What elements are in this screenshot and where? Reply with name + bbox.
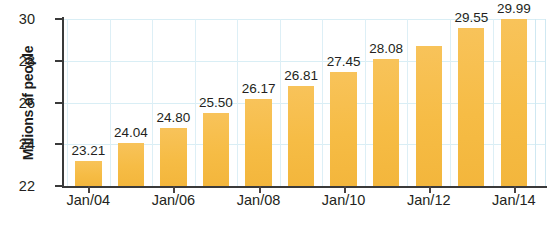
gridline-vertical xyxy=(322,19,323,186)
bar-value-label: 24.04 xyxy=(103,125,159,140)
bar xyxy=(203,113,229,186)
y-tick-mark xyxy=(55,102,63,104)
x-tick-label: Jan/14 xyxy=(469,192,555,208)
x-axis-line xyxy=(62,186,547,188)
bar-value-label: 27.45 xyxy=(316,54,372,69)
bar xyxy=(416,46,442,186)
gridline-vertical xyxy=(152,19,153,186)
x-tick-label: Jan/10 xyxy=(299,192,389,208)
y-tick-label: 26 xyxy=(0,96,35,111)
bar xyxy=(118,143,144,186)
gridline-vertical xyxy=(67,19,68,186)
bar xyxy=(458,28,484,186)
gridline-vertical xyxy=(450,19,451,186)
bar xyxy=(160,128,186,186)
y-tick-mark xyxy=(55,60,63,62)
gridline-vertical xyxy=(493,19,494,186)
y-tick-label: 28 xyxy=(0,54,35,69)
plot-right-border xyxy=(545,19,546,186)
bar xyxy=(245,99,271,186)
y-tick-label: 24 xyxy=(0,137,35,152)
bar xyxy=(501,19,527,186)
gridline-vertical xyxy=(280,19,281,186)
x-tick-label: Jan/12 xyxy=(384,192,474,208)
gridline-vertical xyxy=(110,19,111,186)
y-tick-mark xyxy=(55,185,63,187)
gridline-vertical xyxy=(535,19,536,186)
bar-chart: Millions of people 2224262830 Jan/04Jan/… xyxy=(0,0,555,233)
x-tick-label: Jan/06 xyxy=(128,192,218,208)
bar-value-label: 28.08 xyxy=(358,41,414,56)
x-tick-label: Jan/08 xyxy=(214,192,304,208)
bar xyxy=(288,86,314,186)
bar xyxy=(330,72,356,186)
bar xyxy=(373,59,399,186)
bar-value-label: 24.80 xyxy=(145,110,201,125)
x-tick-label: Jan/04 xyxy=(43,192,133,208)
y-tick-label: 22 xyxy=(0,179,35,194)
bar-value-label: 29.99 xyxy=(486,1,542,16)
bar xyxy=(75,161,101,186)
bar-value-label: 26.81 xyxy=(273,68,329,83)
bar-value-label: 26.17 xyxy=(231,81,287,96)
plot-area xyxy=(63,19,546,186)
bar-value-label: 25.50 xyxy=(188,95,244,110)
bar-value-label: 23.21 xyxy=(60,143,116,158)
y-tick-label: 30 xyxy=(0,12,35,27)
y-tick-mark xyxy=(55,18,63,20)
